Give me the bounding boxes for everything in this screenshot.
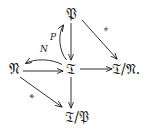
arrow-label-n: N [40, 45, 48, 54]
arrow-label-p: P [50, 33, 56, 42]
node-p: 𝔓 [66, 7, 77, 22]
arrow-t-to-p [60, 25, 67, 60]
node-t-mod-n: 𝔗/𝔑. [112, 62, 140, 76]
arrow-t-to-n [26, 60, 63, 65]
arrow-n-to-tmodp [20, 77, 62, 107]
commutative-diagram: 𝔓 𝔑 𝔗 𝔗/𝔑. 𝔗/𝔓 N P ≅ ≅ [0, 0, 153, 129]
node-t-mod-p: 𝔗/𝔓 [65, 110, 89, 124]
node-t: 𝔗 [66, 62, 76, 77]
arrow-p-to-tmodn [82, 20, 117, 59]
node-n: 𝔑 [9, 62, 20, 77]
